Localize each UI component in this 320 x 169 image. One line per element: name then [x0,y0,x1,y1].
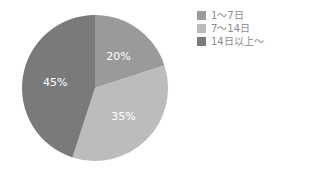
legend-swatch [197,11,206,20]
slice-percent-label: 45% [43,76,67,89]
slice-percent-label: 35% [111,110,135,123]
legend-label: 1～7日 [211,9,244,22]
legend-item-7-14-days: 7～14日 [197,22,264,35]
legend: 1～7日 7～14日 14日以上～ [197,9,264,48]
legend-label: 14日以上～ [211,35,264,48]
slice-percent-label: 20% [106,50,130,63]
legend-item-1-7-days: 1～7日 [197,9,264,22]
legend-swatch [197,37,206,46]
legend-swatch [197,24,206,33]
legend-label: 7～14日 [211,22,250,35]
legend-item-14-plus-days: 14日以上～ [197,35,264,48]
